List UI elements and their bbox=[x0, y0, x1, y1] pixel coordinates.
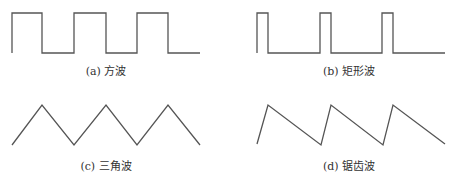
triangle-wave bbox=[12, 105, 200, 145]
waveform-diagram bbox=[0, 0, 450, 180]
square-wave bbox=[12, 13, 200, 53]
rectangular-wave bbox=[257, 13, 445, 53]
caption-c-triangle-wave: (c) 三角波 bbox=[6, 160, 206, 174]
sawtooth-wave bbox=[257, 105, 445, 145]
caption-d-sawtooth-wave: (d) 锯齿波 bbox=[249, 160, 449, 174]
caption-b-rectangular-wave: (b) 矩形波 bbox=[249, 65, 449, 79]
caption-a-square-wave: (a) 方波 bbox=[6, 65, 206, 79]
